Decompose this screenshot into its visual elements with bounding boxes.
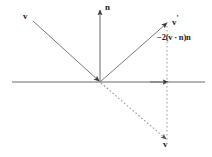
mirrored-vector-label: v bbox=[163, 140, 168, 149]
reflected-vector-prime: ' bbox=[177, 14, 179, 23]
reflected-vector-label: v' bbox=[172, 15, 179, 27]
incident-continuation-dashed bbox=[101, 83, 166, 139]
incident-vector-label: v bbox=[23, 12, 28, 21]
projection-formula-label: −2(v · n)n bbox=[157, 33, 191, 42]
normal-vector-label: n bbox=[105, 3, 110, 12]
reflection-diagram: v n v' v −2(v · n)n bbox=[0, 0, 212, 157]
incident-vector bbox=[33, 21, 99, 81]
diagram-canvas bbox=[0, 0, 212, 157]
